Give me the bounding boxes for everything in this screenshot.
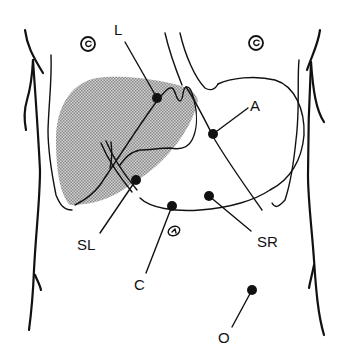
left-nipple-icon [249,36,263,50]
point-SR [204,191,251,231]
right-nipple-icon [81,37,95,51]
esophagus [165,33,218,90]
point-A [208,108,248,139]
abdominal-diagram: L A SL SR C O [0,0,347,361]
label-SR: SR [257,233,278,250]
label-O: O [218,329,230,346]
point-C [146,201,177,273]
label-A: A [250,97,260,114]
label-SL: SL [77,236,95,253]
point-O [232,285,257,327]
label-C: C [134,276,145,293]
umbilicus-icon [167,224,182,237]
label-L: L [114,21,122,38]
torso-right-contour [272,30,324,335]
